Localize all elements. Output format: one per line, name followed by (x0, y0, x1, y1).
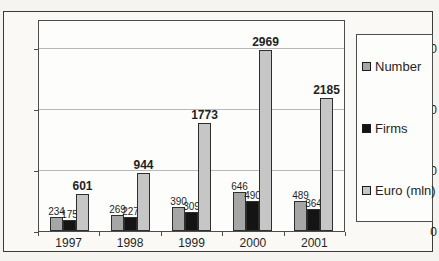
x-axis-labels: 19971998199920002001 (38, 236, 345, 250)
bar-firms-2000: 490 (246, 201, 259, 231)
bar-group-1997: 234175601 (39, 21, 100, 231)
y-tick-mark-2000 (34, 110, 38, 111)
legend-item-firms: Firms (357, 97, 432, 159)
x-tick-mark-5 (345, 232, 346, 236)
y-tick-label-0: 0 (405, 225, 439, 239)
legend-swatch-euro-mln (362, 186, 371, 195)
bar-firms-1998: 227 (124, 217, 137, 231)
bar-firms-1999: 309 (185, 212, 198, 231)
bar-firms-2001: 364 (307, 209, 320, 231)
bar-euro-mln-1999: 1773 (198, 123, 211, 231)
bar-euro-mln-1997: 601 (76, 194, 89, 231)
bar-euro-mln-1998: 944 (137, 173, 150, 231)
plot-area: 2341756012692279443903091773646490296948… (38, 20, 345, 232)
x-label-1998: 1998 (99, 236, 160, 250)
y-tick-mark-3000 (34, 49, 38, 50)
legend-item-euro-mln: Euro (mln) (357, 159, 432, 221)
legend: NumberFirmsEuro (mln) (356, 34, 433, 222)
x-label-2001: 2001 (284, 236, 345, 250)
x-label-1997: 1997 (38, 236, 99, 250)
bar-euro-mln-2001: 2185 (320, 98, 333, 231)
bars-layer: 2341756012692279443903091773646490296948… (39, 21, 344, 231)
legend-item-number: Number (357, 35, 432, 97)
legend-swatch-number (362, 62, 371, 71)
bar-label-euro-mln-2001: 2185 (313, 85, 340, 96)
bar-label-euro-mln-1997: 601 (72, 181, 92, 192)
legend-label-firms: Firms (375, 121, 408, 136)
bar-label-euro-mln-1998: 944 (133, 160, 153, 171)
legend-label-number: Number (375, 59, 421, 74)
x-label-1999: 1999 (161, 236, 222, 250)
bar-group-1998: 269227944 (100, 21, 161, 231)
bar-label-euro-mln-1999: 1773 (191, 110, 218, 121)
x-label-2000: 2000 (222, 236, 283, 250)
legend-label-euro-mln: Euro (mln) (375, 183, 436, 198)
legend-swatch-firms (362, 124, 371, 133)
bar-label-euro-mln-2000: 2969 (252, 37, 279, 48)
bar-group-2000: 6464902969 (222, 21, 283, 231)
y-tick-mark-1000 (34, 171, 38, 172)
bar-firms-1997: 175 (63, 220, 76, 231)
bar-group-2001: 4893642185 (283, 21, 344, 231)
bar-euro-mln-2000: 2969 (259, 50, 272, 231)
bar-group-1999: 3903091773 (161, 21, 222, 231)
bar-chart-figure: 2341756012692279443903091773646490296948… (0, 0, 439, 261)
